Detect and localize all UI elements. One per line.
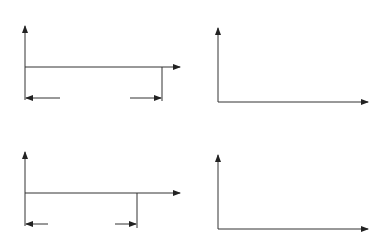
- top-right-frequency-plot: [218, 28, 368, 102]
- bottom-right-frequency-plot: [218, 155, 368, 229]
- diagram-canvas: [0, 0, 386, 243]
- bottom-left-time-plot: [25, 152, 180, 228]
- top-left-time-plot: [25, 26, 180, 101]
